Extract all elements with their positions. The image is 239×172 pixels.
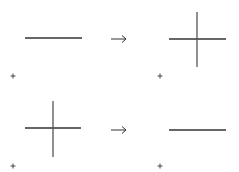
left-origin-marker-icon [11,164,16,169]
transformation-row-2 [11,101,227,169]
right-origin-marker-icon [158,164,163,169]
right-cross [169,12,226,67]
diagram-canvas [0,0,239,172]
left-cross [25,101,81,157]
arrow-right-icon [111,36,126,43]
arrow-right-icon [111,127,126,134]
transformation-row-1 [11,12,227,79]
left-origin-marker-icon [11,74,16,79]
right-origin-marker-icon [158,74,163,79]
